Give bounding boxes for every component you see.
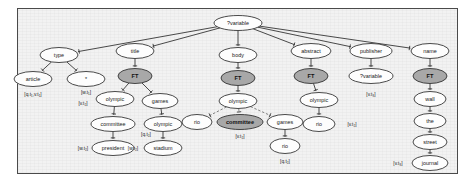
node-label-name: name (423, 48, 437, 54)
graph-node-wall[interactable]: wall (414, 92, 446, 107)
graph-node-committee-title[interactable]: committee (91, 117, 135, 132)
arrow-tick-icon (153, 44, 154, 48)
edge-ft-title-to-olympic-title (122, 83, 129, 91)
annotation-ann-riogames: [q.t₂] (280, 159, 290, 164)
graph-node-olympic-games[interactable]: olympic (144, 117, 182, 132)
annotation-ann-article: [q.t₁,v.t₁] (24, 92, 41, 97)
node-label-journal: journal (421, 160, 438, 166)
node-label-olympic-title: olympic (106, 96, 125, 102)
annotation-ann-rioabs: [v.t₂] (347, 122, 356, 127)
arrow-tick-icon (79, 49, 80, 53)
node-label-rio-body: rio (194, 119, 200, 125)
graph-node-games-title[interactable]: games (142, 94, 178, 109)
node-label-the: the (426, 118, 434, 124)
edge-root-to-title (153, 28, 220, 46)
node-label-street: street (423, 139, 437, 145)
graph-node-publisher[interactable]: publisher (350, 44, 392, 59)
graph-node-stadium[interactable]: stadium (144, 141, 182, 156)
edge-olympic-body-to-games-body (251, 107, 271, 116)
node-label-ft-title: FT (132, 73, 139, 79)
annotation-ann-stadium: [w.t₂] (128, 146, 138, 151)
graph-node-var-publisher[interactable]: ?variable (349, 69, 393, 84)
annotation-layer: [q.t₁,v.t₁][w.t₁][v.t₂][q.t₂][w.t₂][w.t₂… (24, 90, 402, 166)
graph-layer: ?variabletypearticle*titleFTolympicgames… (0, 0, 475, 184)
arrow-tick-icon (409, 46, 410, 50)
annotation-ann-varpub: [v.t₃] (366, 92, 375, 97)
graph-node-journal[interactable]: journal (412, 156, 448, 171)
graph-node-title[interactable]: title (116, 44, 154, 59)
node-label-ft-name: FT (427, 73, 434, 79)
graph-node-rio-abs[interactable]: rio (303, 117, 335, 132)
node-label-olympic-body: olympic (229, 98, 248, 104)
node-label-games-body: games (277, 119, 294, 125)
annotation-ann-journal: [v.t₃] (393, 161, 402, 166)
graph-node-type[interactable]: type (40, 48, 78, 63)
graph-node-article[interactable]: article (14, 72, 52, 87)
graph-node-name[interactable]: name (411, 44, 449, 59)
graph-node-body[interactable]: body (219, 48, 257, 63)
node-label-var-publisher: ?variable (360, 73, 382, 79)
graph-node-games-body[interactable]: games (267, 115, 303, 130)
graph-node-ft-body[interactable]: FT (221, 71, 255, 86)
graph-node-olympic-title[interactable]: olympic (96, 92, 134, 107)
node-label-root: ?variable (227, 20, 249, 26)
node-label-rio-games: rio (282, 143, 288, 149)
edge-ft-title-to-games-title (142, 83, 152, 93)
node-label-rio-abs: rio (316, 121, 322, 127)
figure-root: ?variabletypearticle*titleFTolympicgames… (0, 0, 475, 184)
edge-root-to-name (260, 26, 411, 48)
node-label-article: article (26, 76, 41, 82)
edge-type-to-article (42, 62, 52, 71)
edge-type-to-star (67, 62, 77, 71)
annotation-ann-commbody: [v.t₂] (235, 134, 244, 139)
node-label-wall: wall (424, 96, 434, 102)
node-label-ft-body: FT (235, 75, 242, 81)
node-label-publisher: publisher (360, 48, 382, 54)
annotation-ann-committee: [q.t₂] (141, 132, 151, 137)
annotation-ann-star: [w.t₁] (81, 90, 91, 95)
annotation-ann-star2: [v.t₂] (78, 101, 87, 106)
node-label-title: title (131, 48, 140, 54)
graph-node-ft-name[interactable]: FT (413, 69, 447, 84)
node-label-olympic-games: olympic (154, 121, 173, 127)
node-label-committee-body: committee (226, 119, 254, 125)
arrow-tick-icon (160, 114, 164, 115)
graph-node-rio-body[interactable]: rio (182, 115, 212, 130)
graph-node-root[interactable]: ?variable (214, 16, 262, 31)
annotation-ann-president: [w.t₂] (78, 146, 88, 151)
graph-node-rio-games[interactable]: rio (270, 139, 300, 154)
node-label-games-title: games (152, 98, 169, 104)
node-label-olympic-abs: olympic (310, 97, 329, 103)
graph-node-committee-body[interactable]: committee (217, 115, 263, 130)
edge-root-to-abstract (253, 29, 295, 45)
graph-node-abstract[interactable]: abstract (291, 44, 331, 59)
node-label-committee-title: committee (100, 121, 125, 127)
node-label-stadium: stadium (153, 145, 173, 151)
graph-node-star[interactable]: * (67, 72, 105, 87)
graph-node-ft-abstract[interactable]: FT (294, 69, 328, 84)
edge-olympic-body-to-rio-body (209, 107, 226, 116)
node-label-abstract: abstract (301, 48, 321, 54)
graph-node-olympic-body[interactable]: olympic (219, 94, 257, 109)
node-label-president: president (102, 145, 125, 151)
node-label-type: type (54, 52, 64, 58)
node-label-body: body (232, 52, 244, 58)
graph-node-street[interactable]: street (413, 135, 447, 150)
arrow-tick-icon (350, 44, 351, 48)
node-label-ft-abstract: FT (308, 73, 315, 79)
graph-node-ft-title[interactable]: FT (118, 69, 152, 84)
graph-node-the[interactable]: the (414, 114, 446, 129)
graph-node-olympic-abs[interactable]: olympic (300, 93, 338, 108)
